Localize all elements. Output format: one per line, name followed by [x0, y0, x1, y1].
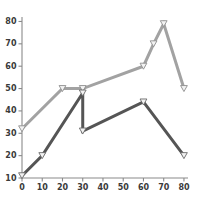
x-tick-label: 50: [118, 183, 130, 192]
x-tick-label: 20: [57, 183, 69, 192]
data-point-marker: [181, 86, 188, 92]
x-tick-label: 0: [19, 183, 25, 192]
x-tick-label: 40: [97, 183, 109, 192]
y-tick-label: 20: [5, 151, 17, 160]
y-tick-label: 50: [5, 84, 17, 93]
x-tick-label: 80: [178, 183, 190, 192]
line-chart-plot: 102030405060708001020304050607080: [0, 0, 197, 203]
y-tick-label: 10: [5, 174, 17, 183]
y-tick-label: 80: [5, 17, 17, 26]
series-layer: [19, 21, 188, 179]
axes-layer: [19, 17, 189, 182]
y-tick-label: 70: [5, 39, 17, 48]
y-tick-label: 40: [5, 106, 17, 115]
data-point-marker: [181, 153, 188, 159]
chart-container: 102030405060708001020304050607080: [0, 0, 197, 203]
data-point-marker: [19, 126, 26, 132]
x-tick-label: 10: [37, 183, 49, 192]
x-tick-label: 60: [138, 183, 150, 192]
series-line-series-light: [22, 24, 184, 129]
y-tick-label: 60: [5, 62, 17, 71]
x-tick-label: 70: [158, 183, 170, 192]
x-tick-label: 30: [77, 183, 89, 192]
y-tick-label: 30: [5, 129, 17, 138]
